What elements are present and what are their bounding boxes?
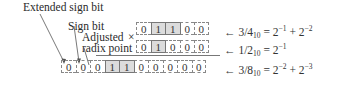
- multiply-symbol: ×: [128, 31, 135, 43]
- bit-cell: 0: [194, 40, 209, 53]
- bit-cell: 0: [136, 40, 151, 53]
- multiplicand-row: 0 1 1 0 0: [136, 22, 209, 36]
- bit-cell: 0: [90, 60, 105, 73]
- bit-cell: 0: [165, 40, 180, 53]
- bit-cell: 0: [148, 60, 163, 73]
- multiplier-equation: ← 1/210 = 2−1: [224, 40, 287, 60]
- bit-cell: 1: [151, 22, 166, 35]
- bit-cell: 0: [134, 60, 149, 73]
- product-equation: ← 3/810 = 2−2 + 2−3: [224, 60, 313, 80]
- product-row: 0 0 0 1 1 0 0 0 0 0: [61, 60, 206, 74]
- radix-point-label: radix point: [82, 42, 132, 54]
- multiplier-row: 0 1 0 0 0: [136, 40, 209, 54]
- bit-cell: 0: [136, 22, 151, 35]
- bit-cell: 0: [194, 22, 209, 35]
- bit-cell: 0: [180, 40, 195, 53]
- bit-cell: 0: [163, 60, 178, 73]
- bit-cell: 0: [180, 22, 195, 35]
- arrow-icon: ←: [224, 26, 236, 38]
- arrow-icon: ←: [224, 44, 236, 56]
- bit-cell: 0: [76, 60, 91, 73]
- bit-cell: 0: [177, 60, 192, 73]
- bit-cell: 1: [151, 40, 166, 53]
- bit-cell: 0: [192, 60, 207, 73]
- bit-cell: 1: [105, 60, 120, 73]
- extended-sign-bit-label: Extended sign bit: [23, 1, 104, 13]
- bit-cell: 0: [61, 60, 76, 73]
- bit-cell: 1: [119, 60, 134, 73]
- multiplicand-equation: ← 3/410 = 2−1 + 2−2: [224, 22, 313, 42]
- bit-cell: 1: [165, 22, 180, 35]
- arrow-icon: ←: [224, 64, 236, 76]
